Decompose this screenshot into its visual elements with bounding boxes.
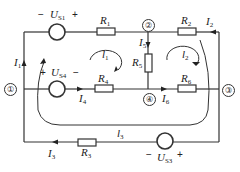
- label-r6: R6: [181, 73, 191, 86]
- label-l3: l3: [117, 128, 124, 141]
- voltage-source-us1: [49, 24, 65, 40]
- node-4: ④: [143, 93, 156, 106]
- arrow-i2: [210, 30, 216, 35]
- arrow-l3: [40, 58, 46, 64]
- label-i1: I1: [14, 57, 21, 70]
- label-r5: R5: [132, 57, 142, 70]
- node-3: ③: [222, 84, 235, 97]
- label-us4: US4: [51, 67, 66, 80]
- label-i3: I3: [48, 148, 55, 161]
- us3-plus: +: [177, 150, 183, 160]
- resistor-r1: [97, 28, 115, 35]
- label-l2: l2: [182, 49, 189, 62]
- label-r1: R1: [100, 15, 110, 28]
- resistor-r3: [78, 139, 96, 146]
- arrow-i4: [77, 87, 83, 92]
- us1-minus: −: [38, 10, 44, 20]
- us4-minus: −: [73, 68, 79, 78]
- us1-plus: +: [72, 10, 78, 20]
- resistor-r4: [95, 85, 113, 92]
- label-r2: R2: [181, 15, 191, 28]
- label-i4: I4: [79, 93, 86, 106]
- label-i5: I5: [139, 37, 146, 50]
- label-i6: I6: [162, 93, 169, 106]
- us4-plus: +: [40, 68, 46, 78]
- label-r3: R3: [81, 147, 91, 160]
- arrow-i5: [146, 42, 151, 48]
- voltage-source-us3: [157, 133, 173, 149]
- arrow-i6: [161, 87, 167, 92]
- arrow-i1: [22, 60, 27, 66]
- label-us1: US1: [50, 9, 65, 22]
- circuit-schematic: [0, 0, 240, 172]
- resistor-r6: [178, 85, 196, 92]
- node-1: ①: [4, 83, 17, 96]
- us3-minus: −: [146, 150, 152, 160]
- voltage-source-us4: [49, 81, 65, 97]
- label-r4: R4: [98, 73, 108, 86]
- label-i2: I2: [206, 16, 213, 29]
- label-us3: US3: [157, 152, 172, 165]
- resistor-r2: [178, 28, 196, 35]
- arrow-i3: [52, 140, 58, 145]
- resistor-r5: [145, 54, 152, 72]
- arrow-l1: [114, 66, 118, 72]
- arrow-l2: [192, 62, 200, 66]
- label-l1: l1: [102, 49, 109, 62]
- node-2: ②: [142, 19, 155, 32]
